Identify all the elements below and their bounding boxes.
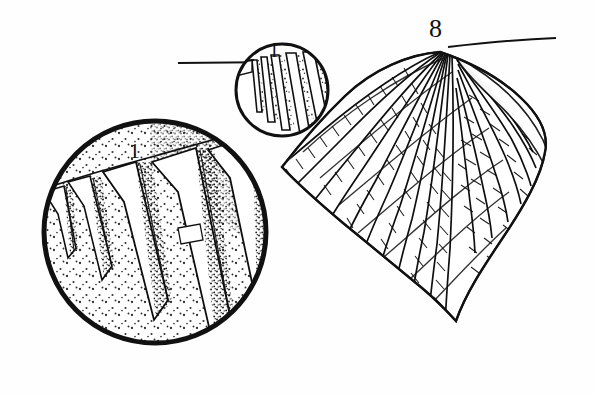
large-circle-rib-notch: [178, 224, 203, 244]
small-circle-detail-label: 1: [269, 40, 279, 60]
specimen-number-label: 8: [429, 16, 442, 42]
large-circle-detail-label: 1: [129, 140, 140, 162]
shell-illustration: [0, 0, 596, 395]
figure-canvas: 8 1 1: [0, 0, 596, 395]
